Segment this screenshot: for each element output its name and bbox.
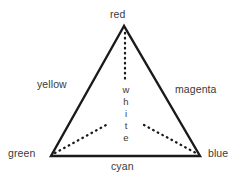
edge-label-cyan: cyan (111, 160, 134, 172)
white-letter: e (123, 133, 128, 145)
color-triangle-diagram: red green blue yellow magenta cyan w h i… (0, 0, 246, 178)
blue-corner-dotted-line (144, 125, 196, 153)
edge-label-yellow: yellow (37, 78, 67, 90)
vertex-label-green: green (8, 147, 35, 159)
edge-label-magenta: magenta (175, 83, 217, 95)
center-label-white: w h i t e (119, 85, 133, 145)
green-corner-dotted-line (55, 125, 106, 153)
vertex-label-red: red (110, 8, 125, 20)
vertex-label-blue: blue (208, 147, 228, 159)
